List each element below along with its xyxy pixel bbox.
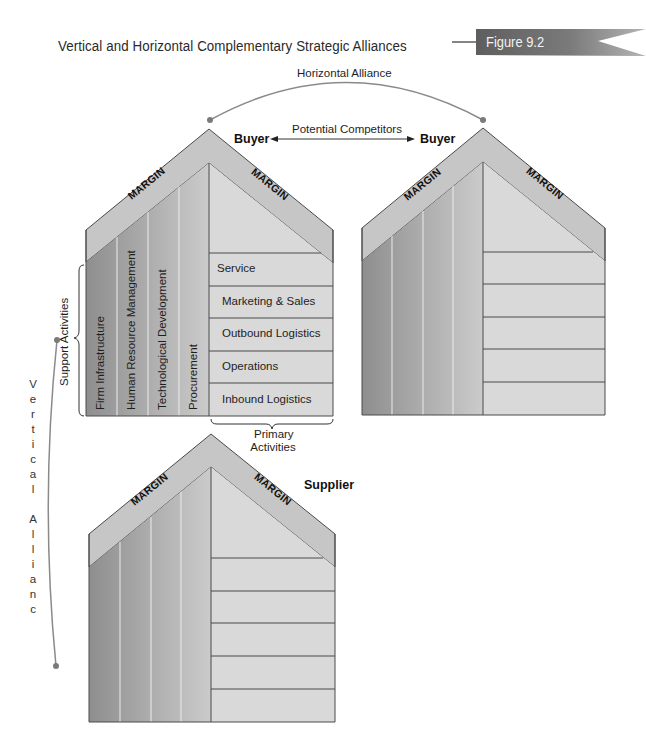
buyer-house-2 — [362, 128, 605, 415]
vertical-alliance-dot-bottom — [53, 663, 59, 669]
diagram-canvas: Vertical and Horizontal Complementary St… — [0, 0, 646, 734]
figure-title: Vertical and Horizontal Complementary St… — [58, 37, 407, 55]
arrow-right-icon — [407, 136, 415, 142]
support-procurement: Procurement — [187, 330, 199, 410]
potential-competitors-label: Potential Competitors — [292, 123, 402, 135]
primary-outbound-logistics: Outbound Logistics — [222, 327, 320, 339]
primary-activities-label-line2: Activities — [246, 441, 300, 453]
horizontal-alliance-label: Horizontal Alliance — [297, 67, 392, 79]
support-activities-label: Support Activities — [58, 296, 70, 386]
horizontal-alliance-dot-left — [207, 117, 213, 123]
supplier-house — [89, 434, 335, 722]
support-technological-development: Technological Development — [156, 262, 168, 410]
support-firm-infrastructure: Firm Infrastructure — [94, 288, 106, 410]
buyer-house-1 — [86, 129, 333, 416]
figure-number: Figure 9.2 — [486, 33, 544, 50]
primary-activities-label-line1: Primary — [254, 428, 292, 440]
buyer-1-label: Buyer — [234, 132, 269, 146]
primary-service: Service — [217, 262, 255, 274]
support-activities-brace — [74, 265, 84, 416]
horizontal-alliance-dot-right — [480, 117, 486, 123]
primary-operations: Operations — [222, 360, 278, 372]
vertical-alliance-arc — [48, 340, 57, 666]
arrow-left-icon — [270, 136, 278, 142]
supplier-label: Supplier — [304, 478, 354, 492]
primary-marketing-sales: Marketing & Sales — [222, 295, 315, 307]
horizontal-alliance-arc — [210, 83, 483, 121]
buyer-2-label: Buyer — [420, 132, 455, 146]
primary-inbound-logistics: Inbound Logistics — [222, 393, 312, 405]
support-human-resource-management: Human Resource Management — [125, 253, 137, 410]
